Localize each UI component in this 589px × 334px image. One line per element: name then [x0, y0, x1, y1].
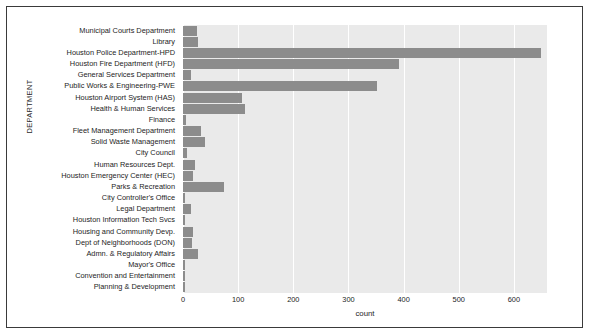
bar-row[interactable] — [183, 215, 547, 225]
y-tick-label: Finance — [149, 115, 175, 125]
bar-row[interactable] — [183, 93, 547, 103]
bar[interactable] — [183, 48, 541, 58]
x-tick-label: 500 — [453, 295, 465, 304]
y-tick-label: Houston Police Department-HPD — [67, 48, 175, 58]
bar[interactable] — [183, 93, 242, 103]
bar[interactable] — [183, 160, 195, 170]
bar[interactable] — [183, 193, 185, 203]
bar-row[interactable] — [183, 160, 547, 170]
bar-row[interactable] — [183, 193, 547, 203]
y-tick-label: Municipal Courts Department — [79, 26, 175, 36]
bar[interactable] — [183, 171, 193, 181]
bar[interactable] — [183, 238, 192, 248]
bar-row[interactable] — [183, 104, 547, 114]
x-tick-label: 600 — [508, 295, 520, 304]
bar[interactable] — [183, 26, 197, 36]
y-tick-label: Health & Human Services — [90, 104, 175, 114]
y-tick-label: Fleet Management Department — [73, 126, 175, 136]
bar-row[interactable] — [183, 182, 547, 192]
y-tick-label: Solid Waste Management — [91, 137, 175, 147]
figure-frame: DEPARTMENT Municipal Courts DepartmentLi… — [6, 6, 583, 328]
bar-row[interactable] — [183, 204, 547, 214]
bar[interactable] — [183, 204, 191, 214]
y-tick-label: Houston Fire Department (HFD) — [70, 59, 175, 69]
y-tick-label: Legal Department — [116, 204, 175, 214]
y-tick-label: Parks & Recreation — [111, 182, 175, 192]
bar-row[interactable] — [183, 59, 547, 69]
x-axis-title: count — [183, 309, 547, 318]
y-tick-label: Housing and Community Devp. — [73, 227, 175, 237]
bar-row[interactable] — [183, 238, 547, 248]
bar-row[interactable] — [183, 148, 547, 158]
bar[interactable] — [183, 215, 185, 225]
bar-row[interactable] — [183, 137, 547, 147]
bar-row[interactable] — [183, 26, 547, 36]
bar-row[interactable] — [183, 48, 547, 58]
bar[interactable] — [183, 115, 186, 125]
x-tick-label: 400 — [397, 295, 409, 304]
bar-row[interactable] — [183, 227, 547, 237]
bar[interactable] — [183, 227, 193, 237]
bar[interactable] — [183, 182, 224, 192]
bar[interactable] — [183, 70, 191, 80]
x-tick-label: 0 — [181, 295, 185, 304]
y-tick-label: Library — [152, 37, 175, 47]
y-tick-label: Convention and Entertainment — [75, 271, 175, 281]
bar[interactable] — [183, 282, 185, 292]
bar-row[interactable] — [183, 70, 547, 80]
y-tick-label: Houston Airport System (HAS) — [75, 93, 175, 103]
y-tick-label: Dept of Neighborhoods (DON) — [76, 238, 175, 248]
bar[interactable] — [183, 104, 245, 114]
bar-row[interactable] — [183, 37, 547, 47]
y-tick-label: Public Works & Engineering-PWE — [64, 81, 175, 91]
y-tick-label-group: Municipal Courts DepartmentLibraryHousto… — [7, 25, 179, 293]
bar-row[interactable] — [183, 81, 547, 91]
bar[interactable] — [183, 37, 198, 47]
x-tick-label-group: 0100200300400500600 — [183, 295, 547, 309]
bar[interactable] — [183, 148, 187, 158]
bar-row[interactable] — [183, 249, 547, 259]
bar[interactable] — [183, 249, 198, 259]
bar[interactable] — [183, 81, 377, 91]
bar-row[interactable] — [183, 115, 547, 125]
bar[interactable] — [183, 260, 185, 270]
y-tick-label: Houston Information Tech Svcs — [73, 215, 175, 225]
x-tick-label: 100 — [232, 295, 244, 304]
bar-row[interactable] — [183, 271, 547, 281]
y-tick-label: City Council — [136, 148, 175, 158]
y-tick-label: Planning & Development — [94, 282, 175, 292]
x-tick-label: 300 — [342, 295, 354, 304]
bar-row[interactable] — [183, 126, 547, 136]
y-tick-label: General Services Department — [78, 70, 175, 80]
y-tick-label: Admn. & Regulatory Affairs — [86, 249, 175, 259]
bar-row[interactable] — [183, 260, 547, 270]
y-tick-label: City Controller's Office — [102, 193, 175, 203]
bar-row[interactable] — [183, 171, 547, 181]
plot-area: DEPARTMENT Municipal Courts DepartmentLi… — [7, 7, 582, 327]
bar[interactable] — [183, 59, 399, 69]
y-tick-label: Houston Emergency Center (HEC) — [61, 171, 175, 181]
bar[interactable] — [183, 137, 205, 147]
x-tick-label: 200 — [287, 295, 299, 304]
y-tick-label: Mayor's Office — [128, 260, 175, 270]
axes-canvas — [183, 25, 547, 293]
y-tick-label: Human Resources Dept. — [94, 160, 175, 170]
bar[interactable] — [183, 271, 185, 281]
chart-screenshot: DEPARTMENT Municipal Courts DepartmentLi… — [0, 0, 589, 334]
bar-row[interactable] — [183, 282, 547, 292]
bar[interactable] — [183, 126, 201, 136]
